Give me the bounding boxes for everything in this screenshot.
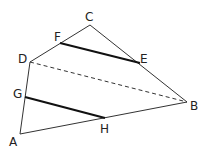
label-h: H: [100, 122, 109, 136]
diagonal-db: [30, 62, 187, 102]
label-b: B: [190, 99, 198, 113]
segment-fe: [60, 43, 140, 63]
geometry-diagram: C F D E G B H A: [0, 0, 210, 154]
label-c: C: [85, 10, 93, 24]
label-e: E: [140, 52, 148, 66]
label-a: A: [9, 135, 18, 149]
segment-gh: [25, 97, 105, 118]
label-d: D: [18, 52, 27, 66]
label-f: F: [54, 30, 61, 44]
label-g: G: [13, 87, 22, 101]
